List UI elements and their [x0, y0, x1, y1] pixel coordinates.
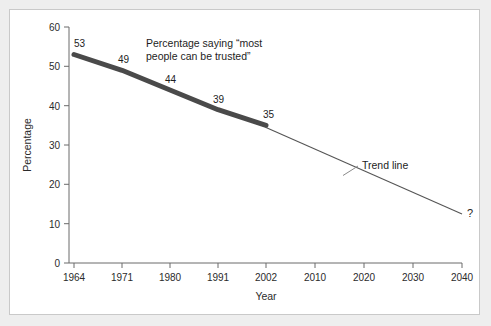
data-label-2040-unknown: ? [467, 207, 473, 219]
trend-line-callout-leader [343, 166, 358, 176]
y-tick-label-60: 60 [49, 22, 61, 33]
trust-percentage-series-line [74, 55, 266, 126]
x-tick-label-1991: 1991 [207, 272, 230, 283]
data-label-2002: 35 [263, 109, 275, 120]
x-tick-label-1980: 1980 [159, 272, 182, 283]
y-axis-title: Percentage [21, 118, 33, 172]
series-annotation-line-2: people can be trusted” [146, 50, 251, 62]
data-label-1971: 49 [118, 54, 130, 65]
data-label-1991: 39 [213, 94, 225, 105]
x-tick-label-1971: 1971 [111, 272, 134, 283]
x-tick-label-2030: 2030 [402, 272, 425, 283]
trend-line-callout-label: Trend line [362, 159, 408, 171]
x-tick-label-2010: 2010 [304, 272, 327, 283]
y-tick-label-50: 50 [49, 61, 61, 72]
figure-panel: 60 50 40 30 20 10 0 Percentage 1964 1971 [9, 9, 480, 315]
chart-canvas: 60 50 40 30 20 10 0 Percentage 1964 1971 [10, 10, 481, 316]
x-axis-title: Year [255, 290, 277, 302]
y-tick-label-40: 40 [49, 101, 61, 112]
trust-decline-line-chart: 60 50 40 30 20 10 0 Percentage 1964 1971 [10, 10, 481, 316]
x-tick-label-1964: 1964 [63, 272, 86, 283]
y-tick-label-30: 30 [49, 140, 61, 151]
series-annotation-line-1: Percentage saying “most [146, 37, 262, 49]
x-tick-label-2020: 2020 [353, 272, 376, 283]
x-tick-label-2002: 2002 [255, 272, 278, 283]
y-tick-label-10: 10 [49, 219, 61, 230]
x-tick-label-2040: 2040 [451, 272, 474, 283]
data-label-1980: 44 [165, 74, 177, 85]
y-tick-label-20: 20 [49, 179, 61, 190]
data-label-1964: 53 [74, 38, 86, 49]
y-tick-label-0: 0 [54, 258, 60, 269]
